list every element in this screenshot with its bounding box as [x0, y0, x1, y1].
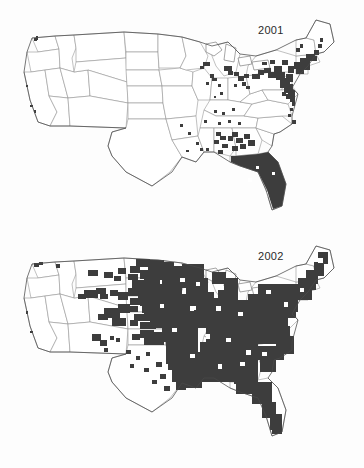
us-map-2001 — [0, 0, 364, 234]
figure-container: 2001 — [0, 0, 364, 468]
map-panel-2002: 2002 — [0, 234, 364, 468]
us-map-2002 — [0, 234, 364, 468]
state-outlines-2001 — [24, 20, 334, 210]
map-panel-2001: 2001 — [0, 0, 364, 234]
